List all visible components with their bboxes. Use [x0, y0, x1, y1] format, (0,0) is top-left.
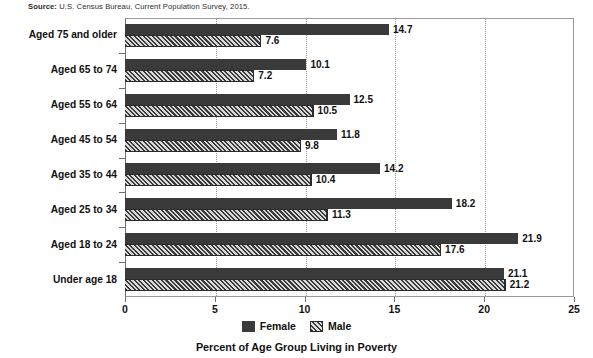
y-axis-tick: [119, 53, 125, 54]
bar-male: [125, 279, 506, 291]
category-label: Under age 18: [0, 274, 117, 286]
bar-value-label-female: 21.9: [522, 233, 541, 244]
x-axis-tick: [484, 297, 485, 302]
bar-value-label-female: 11.8: [341, 129, 360, 140]
bar-value-label-male: 9.8: [305, 140, 319, 152]
x-axis-tick-label: 5: [212, 303, 218, 315]
y-axis-tick: [119, 158, 125, 159]
bar-female: [125, 198, 452, 209]
bar-value-label-female: 18.2: [456, 198, 475, 209]
bar-value-label-female: 14.2: [384, 163, 403, 174]
x-axis-tick: [215, 297, 216, 302]
bar-male: [125, 244, 441, 256]
bar-end-cap: [310, 175, 312, 185]
legend-label-male: Male: [328, 320, 351, 332]
bar-value-label-male: 17.6: [445, 244, 464, 256]
legend-item-male: Male: [310, 320, 351, 332]
bar-female: [125, 94, 350, 105]
legend-item-female: Female: [242, 320, 296, 332]
bar-end-cap: [326, 210, 328, 220]
x-axis-tick-label: 15: [389, 303, 401, 315]
bar-female: [125, 163, 380, 174]
bar-female: [125, 129, 337, 140]
category-label: Aged 65 to 74: [0, 64, 117, 76]
x-axis-tick-label: 20: [478, 303, 490, 315]
source-text: U.S. Census Bureau, Current Population S…: [57, 2, 250, 11]
bar-value-label-male: 11.3: [332, 209, 351, 221]
bar-value-label-male: 21.2: [510, 279, 529, 291]
bar-end-cap: [312, 106, 314, 116]
legend-swatch-male-icon: [310, 321, 323, 332]
bar-value-label-female: 10.1: [310, 59, 329, 70]
y-axis-tick: [119, 262, 125, 263]
bar-value-label-male: 7.6: [265, 35, 279, 47]
x-axis-tick-label: 0: [122, 303, 128, 315]
category-label: Aged 75 and older: [0, 29, 117, 41]
legend-label-female: Female: [260, 320, 296, 332]
bar-value-label-male: 10.5: [318, 105, 337, 117]
bar-end-cap: [300, 141, 302, 151]
bar-value-label-female: 12.5: [354, 94, 373, 105]
x-axis-tick-label: 25: [568, 303, 580, 315]
x-axis-tick: [394, 297, 395, 302]
category-label: Aged 25 to 34: [0, 204, 117, 216]
x-axis-tick: [305, 297, 306, 302]
x-axis-tick: [574, 297, 575, 302]
y-axis-tick: [119, 88, 125, 89]
category-label: Aged 55 to 64: [0, 99, 117, 111]
bar-male: [125, 105, 314, 117]
y-axis-tick: [119, 192, 125, 193]
category-label: Aged 35 to 44: [0, 169, 117, 181]
bar-end-cap: [260, 36, 262, 46]
bar-value-label-female: 21.1: [508, 268, 527, 279]
bar-male: [125, 174, 312, 186]
source-label: Source:: [28, 2, 57, 11]
bar-end-cap: [440, 245, 442, 255]
x-axis-tick-label: 10: [299, 303, 311, 315]
bar-value-label-male: 10.4: [316, 174, 335, 186]
bar-value-label-female: 14.7: [393, 24, 412, 35]
bar-female: [125, 233, 518, 244]
source-note: Source: U.S. Census Bureau, Current Popu…: [28, 2, 250, 11]
category-label: Aged 18 to 24: [0, 239, 117, 251]
bar-male: [125, 140, 301, 152]
bar-value-label-male: 7.2: [258, 70, 272, 82]
x-axis-title: Percent of Age Group Living in Poverty: [0, 341, 593, 353]
x-axis-tick: [125, 297, 126, 302]
bar-end-cap: [253, 71, 255, 81]
category-label: Aged 45 to 54: [0, 134, 117, 146]
bar-male: [125, 35, 261, 47]
bar-female: [125, 24, 389, 35]
y-axis-tick: [119, 123, 125, 124]
bar-female: [125, 59, 306, 70]
chart-legend: Female Male: [0, 320, 593, 332]
bar-male: [125, 70, 254, 82]
bar-female: [125, 268, 504, 279]
bar-end-cap: [504, 280, 506, 290]
poverty-by-age-bar-chart: Source: U.S. Census Bureau, Current Popu…: [0, 0, 593, 358]
bar-male: [125, 209, 328, 221]
y-axis-tick: [119, 227, 125, 228]
legend-swatch-female-icon: [242, 321, 255, 332]
